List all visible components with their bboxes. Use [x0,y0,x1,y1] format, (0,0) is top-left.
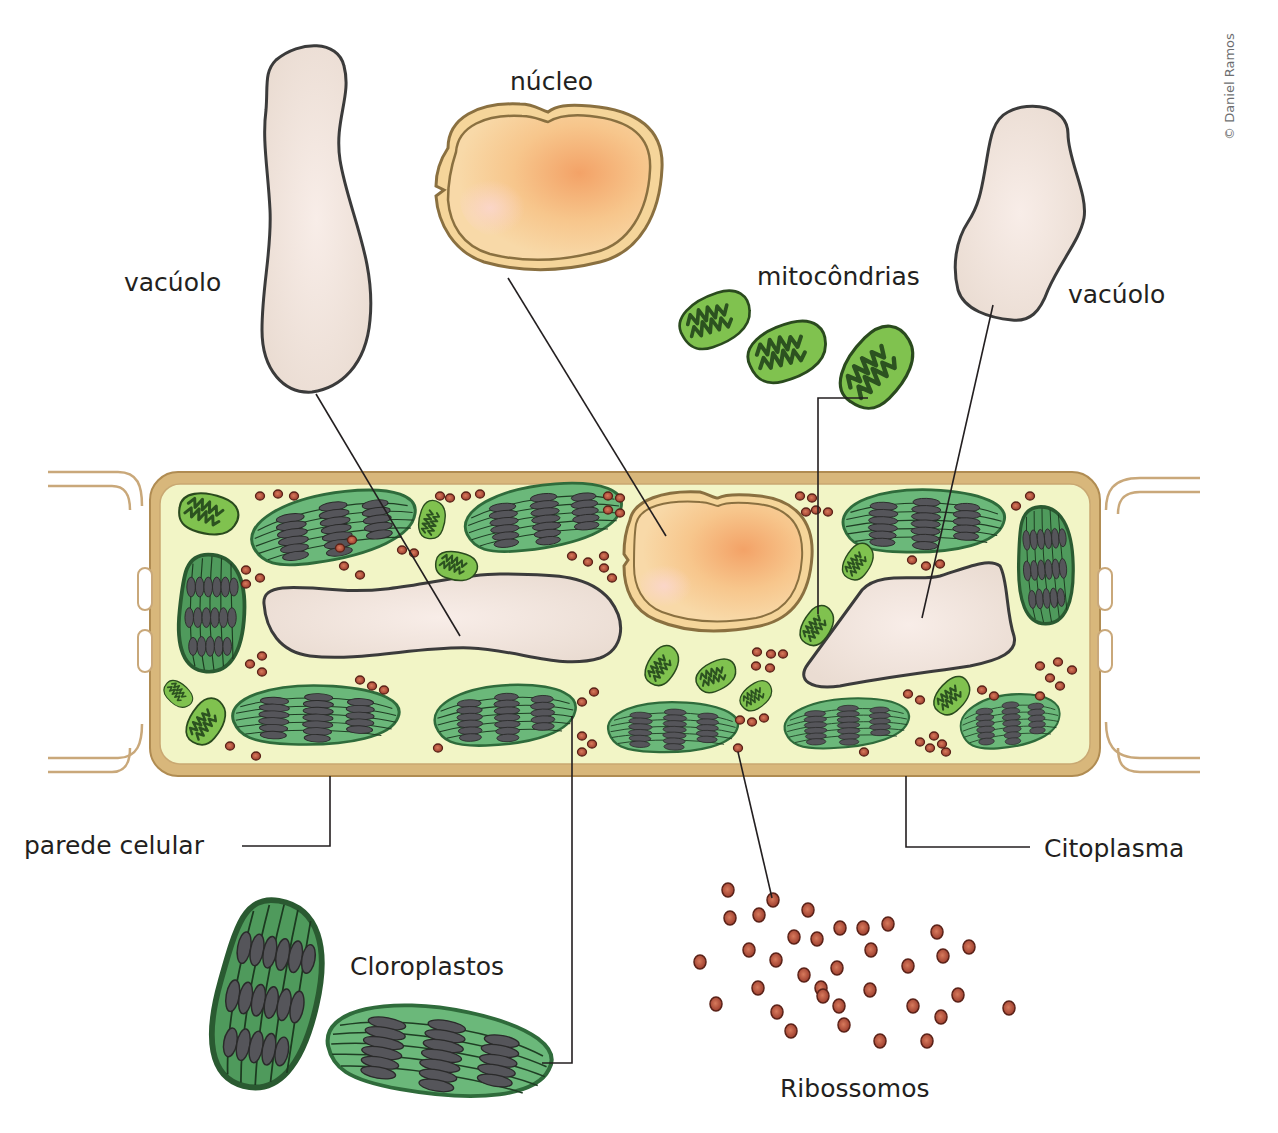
label-vacuolo-left: vacúolo [124,268,221,297]
vacuole-isolated-right [955,106,1084,320]
plant-cell-diagram: núcleo vacúolo mitocôndrias vacúolo pare… [0,0,1278,1133]
vacuole-isolated-left [262,46,371,392]
vacuole-inner-left [264,574,621,662]
diagram-canvas [0,0,1278,1133]
label-nucleo: núcleo [510,67,593,96]
adjacent-cell-left [48,472,142,772]
label-cloroplastos: Cloroplastos [350,952,504,981]
nucleus-isolated [436,104,662,270]
label-mitocondrias: mitocôndrias [757,262,920,291]
adjacent-cell-right [1106,478,1200,772]
ribosomes-isolated [694,883,1015,1048]
label-citoplasma: Citoplasma [1044,834,1184,863]
image-credit: © Daniel Ramos [1222,33,1237,140]
label-parede-celular: parede celular [24,831,204,860]
label-vacuolo-right: vacúolo [1068,280,1165,309]
label-ribossomos: Ribossomos [780,1074,930,1103]
